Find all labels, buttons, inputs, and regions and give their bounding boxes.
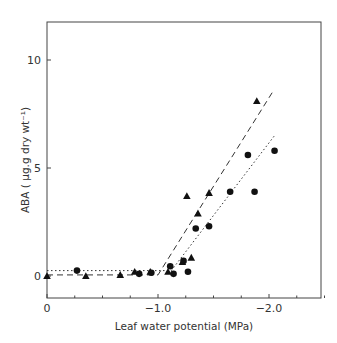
circle-marker <box>180 258 187 265</box>
triangle-marker <box>194 210 202 217</box>
y-tick-label: 10 <box>27 54 41 67</box>
circle-marker <box>245 152 252 159</box>
triangle-marker <box>188 254 196 261</box>
circle-marker <box>192 225 199 232</box>
data-points <box>43 97 278 279</box>
plot-frame <box>47 22 321 298</box>
circle-marker <box>148 269 155 276</box>
chart: 0−1.0−2.0 0510 Leaf water potential (MPa… <box>0 0 337 343</box>
triangle-marker <box>253 97 261 104</box>
triangle-marker <box>82 272 90 279</box>
y-tick-label: 0 <box>34 270 41 283</box>
circle-marker <box>136 271 143 278</box>
circle-marker <box>271 147 278 154</box>
y-axis-title: ABA ( µg.g dry wt⁻¹) <box>19 107 31 213</box>
circle-marker <box>170 271 177 278</box>
x-axis-ticks: 0−1.0−2.0 <box>44 294 325 315</box>
fit-lines <box>47 92 275 275</box>
fit-line-circles <box>47 136 275 271</box>
circle-marker <box>167 263 174 270</box>
x-tick-label: −1.0 <box>145 302 172 315</box>
circle-marker <box>251 188 258 195</box>
circle-marker <box>206 223 213 230</box>
fit-line-triangles <box>47 92 272 275</box>
x-tick-label: −2.0 <box>256 302 283 315</box>
y-tick-label: 5 <box>34 162 41 175</box>
x-axis-title: Leaf water potential (MPa) <box>115 320 253 332</box>
circle-marker <box>74 267 81 274</box>
triangle-marker <box>183 192 191 199</box>
x-tick-label: 0 <box>44 302 51 315</box>
circle-marker <box>227 188 234 195</box>
circle-marker <box>185 268 192 275</box>
